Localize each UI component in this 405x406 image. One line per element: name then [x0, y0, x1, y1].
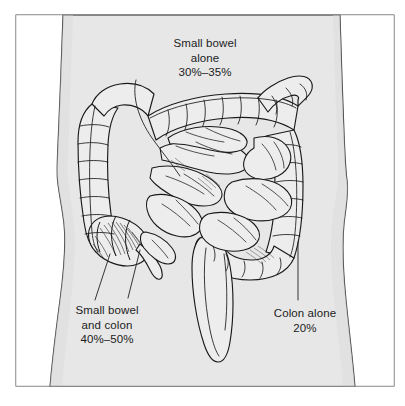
annotation-line: 40%–50%	[36, 332, 178, 347]
illustration-figure: Small bowel alone 30%–35% Small bowel an…	[0, 0, 405, 406]
annotation-line: Colon alone	[243, 306, 367, 321]
annotation-line: Small bowel	[133, 36, 277, 51]
annotation-line: and colon	[36, 318, 178, 333]
annotation-colon-alone: Colon alone 20%	[243, 306, 367, 335]
annotation-line: 30%–35%	[133, 65, 277, 80]
annotation-line: Small bowel	[36, 303, 178, 318]
annotation-small-bowel-and-colon: Small bowel and colon 40%–50%	[36, 303, 178, 347]
annotation-line: 20%	[243, 321, 367, 336]
annotation-small-bowel-alone: Small bowel alone 30%–35%	[133, 36, 277, 80]
annotation-line: alone	[133, 51, 277, 66]
